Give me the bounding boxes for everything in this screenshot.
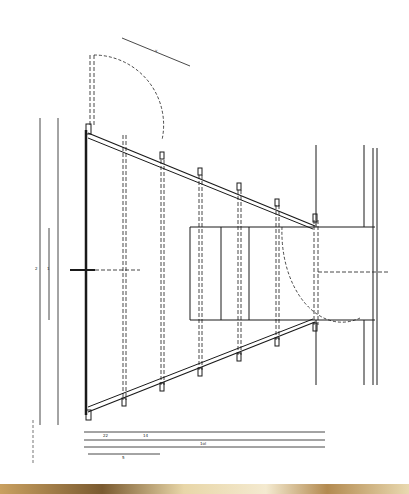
dim-label-top: v [155,48,157,53]
dim-label-left-2: 1 [47,266,50,271]
dim-label-bottom-2: 14 [143,433,148,438]
architectural-drawing [0,0,409,494]
dim-label-left-1: 2 [35,266,38,271]
dim-label-bottom-4: 5 [122,455,125,460]
dim-label-bottom-3: 1ol [200,441,206,446]
scan-edge [0,484,409,494]
upper-balustrade [88,133,315,226]
dim-label-bottom-1: 22 [103,433,108,438]
